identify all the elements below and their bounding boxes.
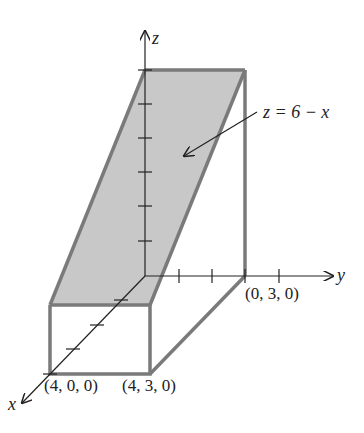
point-label-0-3-0: (0, 3, 0) xyxy=(245,284,299,303)
z-axis-label: z xyxy=(151,28,159,48)
surface-label: z = 6 − x xyxy=(262,102,329,122)
point-label-4-3-0: (4, 3, 0) xyxy=(122,376,176,395)
solid-diagram: z y x z = 6 − x (4, 0, 0) (4, 3, 0) (0, … xyxy=(0,0,364,433)
y-axis-label: y xyxy=(335,265,345,285)
x-axis-label: x xyxy=(7,394,16,414)
point-label-4-0-0: (4, 0, 0) xyxy=(44,376,98,395)
plane-surface xyxy=(50,70,245,305)
